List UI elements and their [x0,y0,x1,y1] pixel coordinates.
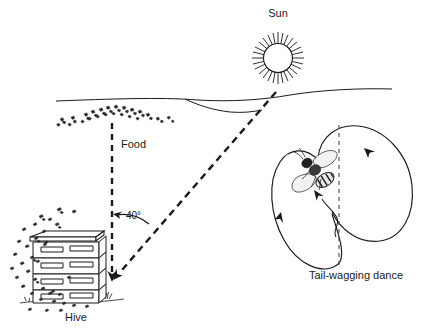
hive-to-sun-dashed-line [113,92,276,280]
figure-eight-dance-path-icon [272,125,413,269]
horizon-line-icon [56,89,392,113]
bee-waggle-dance-diagram: Sun [0,0,429,328]
sun-icon [252,32,304,84]
dance-label: Tail-wagging dance [309,269,403,281]
sun-label: Sun [268,7,288,19]
hive-label: Hive [65,311,87,323]
hive-to-food-dashed-line [107,123,116,282]
bee-icon [292,148,337,192]
flower-cluster-icon [57,105,175,127]
beehive-icon [20,231,124,303]
food-label: Food [121,138,146,150]
angle-label: 40° [126,210,141,221]
